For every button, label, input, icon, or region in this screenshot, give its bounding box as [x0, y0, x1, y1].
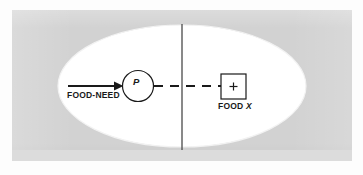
- goal-label: FOOD X: [218, 101, 252, 111]
- person-label: P: [133, 76, 140, 87]
- food-need-label: FOOD-NEED: [67, 90, 120, 100]
- goal-label-italic: X: [246, 101, 252, 111]
- goal-label-word: FOOD: [218, 101, 243, 111]
- field-diagram: [0, 0, 363, 175]
- figure-page: P FOOD-NEED FOOD X: [0, 0, 363, 175]
